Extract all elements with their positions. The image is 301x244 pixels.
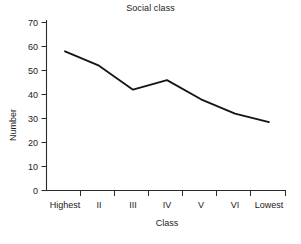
- x-tick-label: Lowest: [255, 200, 284, 210]
- line-chart-plot: 70 60 50 40 30 20 10 0 Number Highest II…: [0, 0, 301, 244]
- x-tick-label: III: [129, 200, 137, 210]
- y-axis-ticks: [42, 23, 47, 191]
- y-tick-label: 70: [28, 18, 38, 28]
- y-tick-label: 50: [28, 66, 38, 76]
- x-axis-title: Class: [156, 218, 179, 228]
- data-series-line: [65, 51, 269, 122]
- x-tick-label: VI: [231, 200, 240, 210]
- x-tick-label: II: [96, 200, 101, 210]
- y-tick-label: 60: [28, 42, 38, 52]
- y-tick-label: 30: [28, 114, 38, 124]
- y-tick-label: 10: [28, 162, 38, 172]
- x-tick-label: IV: [163, 200, 172, 210]
- y-axis-tick-labels: 70 60 50 40 30 20 10 0: [28, 18, 38, 196]
- y-tick-label: 0: [33, 186, 38, 196]
- chart-container: Social class 70 60 50 40 30 20 10 0: [0, 0, 301, 244]
- x-axis-ticks: [81, 191, 286, 197]
- y-tick-label: 40: [28, 90, 38, 100]
- x-axis-tick-labels: Highest II III IV V VI Lowest: [50, 200, 284, 210]
- x-tick-label: Highest: [50, 200, 81, 210]
- y-tick-label: 20: [28, 138, 38, 148]
- x-tick-label: V: [198, 200, 204, 210]
- y-axis-title: Number: [8, 109, 18, 141]
